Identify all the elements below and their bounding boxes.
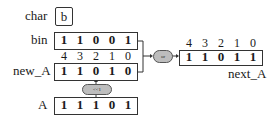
a-label: A — [38, 97, 47, 113]
next-a-bit-3: 1 — [199, 49, 211, 65]
char-label: char — [25, 8, 47, 24]
next-a-bit-0: 1 — [247, 49, 259, 65]
next-a-bit-4: 1 — [183, 49, 195, 65]
char-value-box: b — [55, 7, 73, 26]
shift-left-op: <<1 — [82, 84, 112, 95]
new-a-label: new_A — [13, 63, 51, 79]
or-op: or — [153, 50, 173, 63]
a-bit-4: 1 — [58, 97, 70, 113]
a-bits: 1 1 1 0 1 — [58, 97, 134, 113]
bin-bit-4: 1 — [58, 32, 70, 48]
bit-indices-left: 4 3 2 1 0 — [58, 49, 134, 64]
index-2: 2 — [90, 49, 102, 64]
a-bit-2: 1 — [90, 97, 102, 113]
bin-bit-0: 1 — [122, 32, 134, 48]
a-bit-0: 1 — [122, 97, 134, 113]
next-a-bit-2: 0 — [215, 49, 227, 65]
next-a-bit-1: 1 — [231, 49, 243, 65]
new-a-bit-2: 0 — [90, 63, 102, 79]
new-a-bit-4: 1 — [58, 63, 70, 79]
index-1: 1 — [106, 49, 118, 64]
next-a-label: next_A — [228, 66, 266, 82]
bin-bits: 1 1 0 0 1 — [58, 32, 134, 48]
new-a-bit-3: 1 — [74, 63, 86, 79]
index-0: 0 — [122, 49, 134, 64]
char-value: b — [56, 8, 72, 25]
bin-bit-1: 0 — [106, 32, 118, 48]
bin-label: bin — [31, 32, 48, 48]
bin-bit-3: 1 — [74, 32, 86, 48]
index-4: 4 — [58, 49, 70, 64]
bin-bit-2: 0 — [90, 32, 102, 48]
new-a-bit-0: 0 — [122, 63, 134, 79]
a-bit-3: 1 — [74, 97, 86, 113]
next-a-bits: 1 1 0 1 1 — [183, 49, 259, 65]
new-a-bit-1: 1 — [106, 63, 118, 79]
new-a-bits: 1 1 0 1 0 — [58, 63, 134, 79]
a-bit-1: 0 — [106, 97, 118, 113]
index-3: 3 — [74, 49, 86, 64]
